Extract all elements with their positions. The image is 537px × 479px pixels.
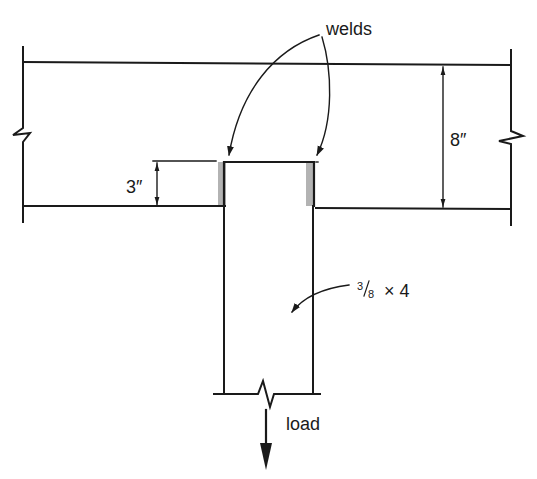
weld-connection-diagram: 3″ 8″ welds 3 8 × 4 load	[0, 0, 537, 479]
load-arrowhead-icon	[260, 443, 272, 470]
plate-size-rest: × 4	[384, 281, 410, 301]
load-callout: load	[260, 410, 320, 470]
break-line-right-icon	[499, 50, 523, 225]
break-line-left-icon	[13, 47, 30, 222]
beam	[23, 62, 511, 209]
welds-callout: welds	[229, 19, 372, 155]
load-label: load	[286, 414, 320, 434]
leader-left-weld	[229, 35, 319, 155]
plate-size-numerator: 3	[357, 280, 363, 292]
welds-label: welds	[325, 19, 372, 39]
welds-group	[218, 162, 315, 206]
plate-outline	[224, 162, 314, 206]
dimension-beam-depth: 8″	[443, 67, 467, 207]
leader-right-weld	[317, 37, 330, 155]
plate	[214, 162, 320, 407]
leader-plate-size	[292, 285, 349, 312]
beam-top-edge	[23, 62, 511, 65]
dimension-weld-length: 3″	[126, 163, 157, 205]
plate-size-callout: 3 8 × 4	[292, 280, 410, 312]
plate-size-denominator: 8	[368, 288, 374, 300]
beam-bottom-edge-right	[316, 208, 511, 209]
dimension-label-8in: 8″	[450, 130, 467, 150]
dimension-label-3in: 3″	[126, 177, 143, 197]
plate-break-line-icon	[214, 381, 320, 407]
